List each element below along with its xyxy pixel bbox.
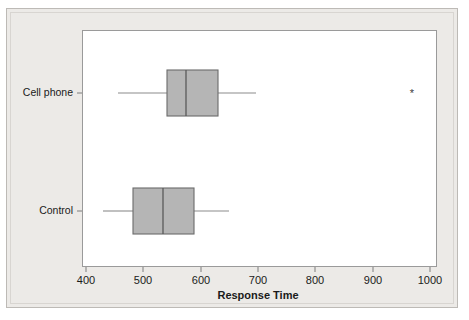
category-label-control: Control: [39, 204, 73, 216]
x-tick-label-800: 800: [306, 274, 324, 286]
box-cell-phone: [167, 70, 218, 116]
boxplot-chart: * Cell phone Control 400 500: [0, 0, 469, 320]
x-tick-label-1000: 1000: [418, 274, 442, 286]
category-axis: Cell phone Control: [23, 86, 82, 216]
figure-root: * Cell phone Control 400 500: [0, 0, 469, 320]
x-tick-label-500: 500: [134, 274, 152, 286]
x-axis-title: Response Time: [217, 289, 298, 301]
x-axis: 400 500 600 700 800 900 1000: [77, 267, 442, 286]
x-tick-label-900: 900: [364, 274, 382, 286]
outlier-marker-cell-phone: *: [410, 87, 415, 99]
x-tick-label-700: 700: [249, 274, 267, 286]
x-tick-label-400: 400: [77, 274, 95, 286]
boxplot-group-control: [103, 188, 229, 234]
x-tick-label-600: 600: [192, 274, 210, 286]
category-label-cell-phone: Cell phone: [23, 86, 73, 98]
boxplot-group-cell-phone: *: [118, 70, 415, 116]
